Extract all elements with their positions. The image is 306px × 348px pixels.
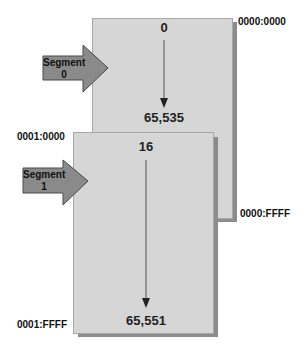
- segment-1-label-line1: Segment: [23, 169, 65, 181]
- segment-1-label-line2: 1: [23, 181, 65, 193]
- segment-1-label: Segment 1: [23, 169, 65, 193]
